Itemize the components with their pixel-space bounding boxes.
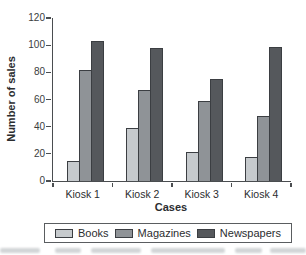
category-label: Kiosk 2 <box>113 188 173 200</box>
legend-swatch-books <box>55 229 73 238</box>
x-axis-title: Cases <box>52 201 290 213</box>
y-tick-mark <box>46 153 51 154</box>
scan-blob <box>270 248 306 253</box>
x-tick-mark <box>52 183 53 188</box>
y-tick-mark <box>46 180 51 181</box>
scan-blob <box>151 248 226 253</box>
legend-swatch-magazines <box>115 229 133 238</box>
legend-item: Newspapers <box>197 227 281 239</box>
y-tick-label: 120 <box>11 12 45 24</box>
bar-newspapers <box>210 79 223 181</box>
category-label: Kiosk 4 <box>232 188 292 200</box>
category-labels: Kiosk 1Kiosk 2Kiosk 3Kiosk 4 <box>53 188 291 200</box>
x-tick-mark <box>171 183 172 188</box>
bar-newspapers <box>91 41 104 181</box>
scan-blob <box>235 248 262 253</box>
legend-item: Magazines <box>115 227 191 239</box>
plot-area: Kiosk 1Kiosk 2Kiosk 3Kiosk 4 02040608010… <box>52 18 291 182</box>
bar-group <box>172 18 232 181</box>
y-tick-label: 60 <box>11 94 45 106</box>
category-label: Kiosk 3 <box>172 188 232 200</box>
legend-label: Magazines <box>138 227 191 239</box>
y-tick-label: 80 <box>11 66 45 78</box>
x-tick-mark <box>290 183 291 188</box>
legend-swatch-newspapers <box>197 229 215 238</box>
bar-group <box>113 18 173 181</box>
bar-groups <box>53 18 291 181</box>
bar-newspapers <box>269 47 282 181</box>
scan-artifact <box>0 248 306 254</box>
y-tick-label: 20 <box>11 148 45 160</box>
bar-newspapers <box>150 48 163 181</box>
bar-group <box>53 18 113 181</box>
category-label: Kiosk 1 <box>53 188 113 200</box>
bar-group <box>232 18 292 181</box>
y-tick-label: 0 <box>11 175 45 187</box>
scan-blob <box>0 248 40 253</box>
y-tick-mark <box>46 99 51 100</box>
legend-item: Books <box>55 227 109 239</box>
y-tick-mark <box>46 45 51 46</box>
y-tick-label: 100 <box>11 39 45 51</box>
scan-blob <box>91 248 141 253</box>
legend-label: Newspapers <box>220 227 281 239</box>
legend-label: Books <box>78 227 109 239</box>
y-tick-mark <box>46 17 51 18</box>
y-tick-mark <box>46 126 51 127</box>
x-tick-mark <box>112 183 113 188</box>
x-tick-mark <box>231 183 232 188</box>
y-tick-label: 40 <box>11 121 45 133</box>
chart-page: Number of sales Kiosk 1Kiosk 2Kiosk 3Kio… <box>0 0 306 255</box>
legend: BooksMagazinesNewspapers <box>44 223 292 243</box>
y-tick-mark <box>46 72 51 73</box>
scan-blob <box>55 248 81 253</box>
